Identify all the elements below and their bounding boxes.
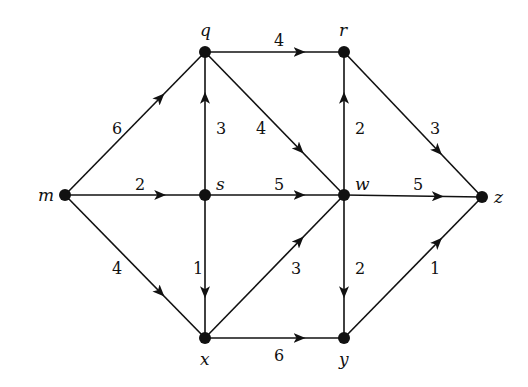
edge-weight-y-z: 1	[430, 259, 440, 278]
edge-weight-s-x: 1	[193, 259, 203, 278]
arrow-m-x	[159, 291, 160, 292]
node-label-m: m	[38, 185, 54, 205]
node-label-z: z	[493, 187, 504, 207]
edge-weight-x-y: 6	[274, 346, 284, 365]
node-label-r: r	[339, 20, 348, 40]
edge-weight-m-q: 6	[112, 119, 122, 138]
node-s	[199, 189, 211, 201]
arrow-x-w	[298, 241, 299, 242]
edge-weight-r-z: 3	[430, 119, 440, 138]
node-label-x: x	[200, 349, 210, 369]
edge-weight-q-w: 4	[256, 119, 266, 138]
edges-layer	[65, 52, 482, 338]
node-label-q: q	[200, 20, 211, 40]
edge-weight-q-r: 4	[274, 31, 284, 50]
edge-weight-s-w: 5	[274, 175, 284, 194]
edge-weight-m-s: 2	[135, 175, 145, 194]
node-y	[338, 332, 350, 344]
node-label-w: w	[355, 174, 370, 194]
edge-weight-w-r: 2	[355, 119, 365, 138]
edge-weight-s-q: 3	[216, 119, 226, 138]
edge-m-x	[65, 195, 205, 338]
node-z	[476, 191, 488, 203]
edge-m-q	[65, 52, 205, 195]
edge-x-w	[205, 195, 344, 338]
graph-diagram: 624344512353261mqrswzxy	[0, 0, 528, 387]
node-q	[199, 46, 211, 58]
node-r	[338, 46, 350, 58]
edge-weight-w-y: 2	[355, 259, 365, 278]
arrow-r-z	[436, 149, 437, 150]
node-label-y: y	[338, 349, 349, 369]
edge-weight-m-x: 4	[112, 259, 122, 278]
edge-weight-x-w: 3	[291, 259, 301, 278]
node-label-s: s	[216, 174, 225, 194]
node-x	[199, 332, 211, 344]
arrow-m-q	[159, 98, 160, 99]
node-m	[59, 189, 71, 201]
node-w	[338, 189, 350, 201]
arrow-y-z	[436, 242, 437, 243]
arrow-q-w	[298, 148, 299, 149]
edge-w-z	[344, 195, 482, 197]
edge-weight-w-z: 5	[413, 175, 423, 194]
